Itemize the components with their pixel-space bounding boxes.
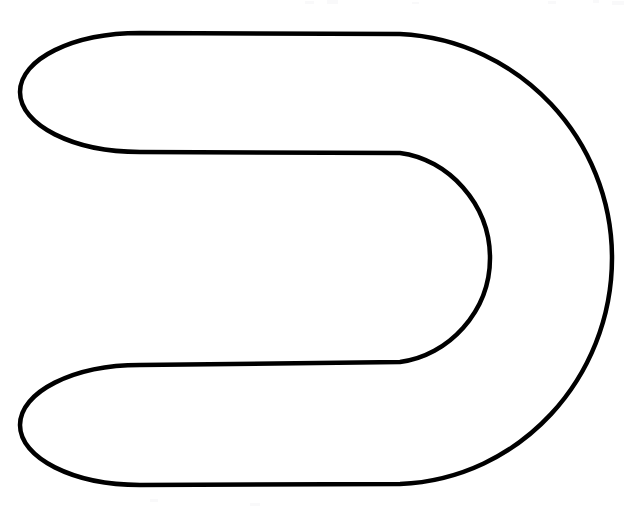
drawing-canvas — [0, 0, 635, 508]
horseshoe-figure — [0, 0, 635, 508]
canvas-background — [0, 0, 635, 508]
